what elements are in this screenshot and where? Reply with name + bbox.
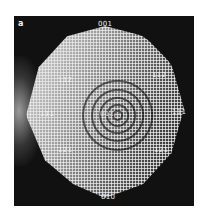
label-lower-right: 121 — [154, 146, 168, 154]
label-010: 010 — [101, 193, 115, 201]
label-center-011: 011 — [100, 110, 114, 118]
label-lower-left: 121 — [58, 146, 72, 154]
label-001: 001 — [98, 20, 112, 28]
panel-label: a — [18, 20, 24, 28]
label-right-111: 111 — [172, 108, 186, 116]
label-upper-right: 112 — [152, 71, 166, 79]
label-left-111: 111 — [40, 110, 54, 118]
fim-image: a 001 112 112 111 011 111 121 121 010 — [14, 16, 194, 206]
label-upper-left: 112 — [58, 76, 72, 84]
